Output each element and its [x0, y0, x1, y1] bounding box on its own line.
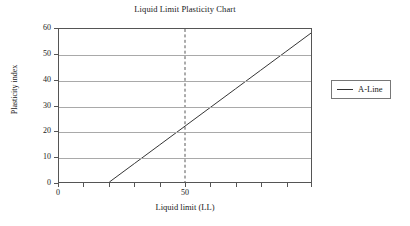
y-axis-tick-label: 60: [29, 24, 51, 32]
x-axis-tick-label-group: 050: [58, 188, 312, 200]
x-axis-tick-label: 0: [45, 188, 71, 197]
y-axis-tick-label: 20: [29, 127, 51, 135]
x-axis-tick-mark: [83, 183, 84, 187]
plot-area: [58, 28, 312, 183]
y-axis-tick-label: 30: [29, 102, 51, 110]
chart-title: Liquid Limit Plasticity Chart: [60, 4, 310, 14]
y-axis-tick-label: 0: [29, 179, 51, 187]
y-axis-tick-label: 50: [29, 50, 51, 58]
chart-legend[interactable]: A-Line: [331, 80, 391, 99]
gridline-horizontal: [59, 107, 311, 108]
x-axis-tick-mark: [109, 183, 110, 187]
x-axis-tick-mark: [261, 183, 262, 187]
gridline-horizontal: [59, 55, 311, 56]
gridline-horizontal: [59, 158, 311, 159]
x-axis-tick-mark: [160, 183, 161, 187]
x-axis-tick-mark: [311, 183, 312, 187]
y-axis-tick-label: 40: [29, 76, 51, 84]
x-axis-tick-mark: [185, 183, 186, 187]
x-axis-tick-mark: [58, 183, 59, 187]
x-axis-tick-mark: [210, 183, 211, 187]
gridline-horizontal: [59, 81, 311, 82]
y-axis-tick-label: 10: [29, 153, 51, 161]
x-axis-tick-label: 50: [172, 188, 198, 197]
plasticity-chart-figure: Liquid Limit Plasticity Chart Plasticity…: [0, 0, 410, 226]
x-axis-tick-mark: [236, 183, 237, 187]
legend-line-swatch-icon: [337, 89, 353, 90]
x-axis-title: Liquid limit (LL): [58, 202, 312, 212]
legend-item[interactable]: A-Line: [337, 85, 383, 94]
legend-item-label: A-Line: [358, 85, 383, 94]
gridline-horizontal: [59, 132, 311, 133]
x-axis-tick-mark: [287, 183, 288, 187]
x-axis-tick-mark: [134, 183, 135, 187]
